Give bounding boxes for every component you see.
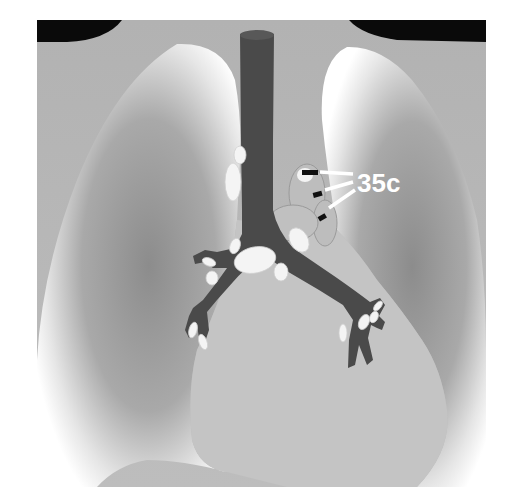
lymph-node — [206, 271, 218, 285]
lymph-node — [225, 163, 241, 201]
chest-diagram-svg: 35c — [37, 20, 486, 487]
pointer-line — [320, 172, 353, 174]
lymph-node — [339, 324, 347, 342]
lymph-node — [274, 263, 288, 281]
chest-diagram: 35c — [37, 20, 486, 487]
station-label: 35c — [357, 168, 400, 198]
trachea-top — [240, 30, 274, 40]
lymph-node — [234, 146, 246, 164]
marker — [302, 170, 318, 175]
